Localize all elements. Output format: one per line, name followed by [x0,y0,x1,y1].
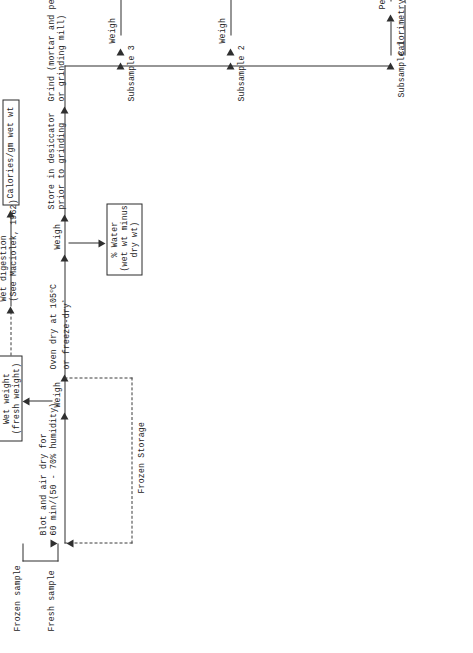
arrow-to-pct-water-box [98,239,105,247]
source-bracket-vertical [22,560,58,561]
trunk-line-3 [64,257,65,379]
arrow-right [116,48,124,55]
connector-line [230,0,231,35]
step-ss3-weigh-a: Weigh [107,17,117,43]
step-pellet-formation: Pellet formation [377,0,387,9]
result-wet-weight-box: Wet weight (fresh weight) [0,355,22,441]
arrow-to-wet-digestion [6,306,14,313]
trunk-line-1 [64,415,65,543]
label-subsample-3: Subsample 3 [126,45,136,101]
label-calorimetry: Calorimetry [396,0,406,55]
connector-line [120,0,121,35]
step-store-desiccator: Store in desiccator prior to grinding [46,112,66,209]
connector-line [390,21,391,55]
arrow-subsample-3 [116,62,124,69]
grind-to-split-line [64,65,65,109]
wet-digestion-to-result-line [10,214,11,306]
result-calories-gm-wet-wt-box: Calories/gm wet wt [2,99,19,205]
dashed-to-wet-digestion [10,311,11,355]
trunk-line-4 [64,219,65,257]
arrow-frozen-storage-rejoin [66,539,73,547]
trunk-line-2 [64,379,65,415]
label-fresh-sample: Fresh sample [46,570,56,631]
arrow-right [386,14,394,21]
weigh1-to-wet-weight-line [28,400,52,401]
trunk-line-5 [64,109,65,219]
label-frozen-storage: Frozen Storage [136,421,146,493]
arrow-to-calories-wet-wt [6,210,14,217]
arrow-subsample-1 [386,62,394,69]
frozen-storage-branch-down-1 [64,542,132,543]
frozen-storage-bottom [131,377,132,543]
arrow-right [226,48,234,55]
label-subsample-2: Subsample 2 [236,45,246,101]
result-pct-water-box: % Water (wet wt minus dry wt) [106,203,142,275]
arrow-to-wet-weight-box [22,397,29,405]
frozen-storage-branch-up [64,377,132,378]
step-ss2-weigh-a: Weigh [217,17,227,43]
step-oven-dry: Oven dry at 105oC or freeze-dry* [46,283,72,369]
label-frozen-sample: Frozen sample [12,565,22,631]
source-bracket-frozen-stub [22,543,23,561]
connector-line [390,0,391,1]
flowchart-canvas: Fresh sample Frozen sample Blot and air … [0,0,473,653]
step-blot-air-dry: Blot and air dry for 60 min/(50 - 70% hu… [38,402,58,535]
step-grind: Grind (mortar and pestle or grinding mil… [46,0,66,101]
weigh2-to-water-line [68,242,100,243]
arrow-subsample-2 [226,62,234,69]
step-weigh-1: Weigh [52,381,62,407]
step-weigh-2: Weigh [52,223,62,249]
arrow-into-blot [50,539,57,547]
